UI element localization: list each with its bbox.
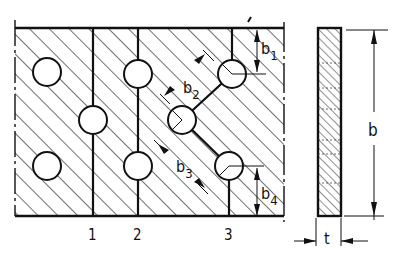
edge-tick-mark [248, 17, 251, 22]
label-b: b [368, 120, 378, 140]
hole [33, 152, 61, 180]
hole [79, 106, 107, 134]
dimension-b: b [344, 30, 388, 220]
diagram-canvas: b1 b2 b3 b4 1 2 3 [0, 0, 397, 254]
section-label-3: 3 [224, 226, 233, 244]
section-label-1: 1 [88, 226, 97, 244]
plate-body [15, 28, 284, 216]
section-label-2: 2 [133, 226, 142, 244]
section-view: b t [294, 28, 388, 248]
hole [33, 58, 61, 86]
plate-view: b1 b2 b3 b4 1 2 3 [15, 17, 284, 244]
dimension-t: t [294, 218, 368, 248]
label-t: t [324, 229, 330, 248]
hole [124, 152, 152, 180]
hole [124, 60, 152, 88]
section-body [318, 28, 341, 216]
